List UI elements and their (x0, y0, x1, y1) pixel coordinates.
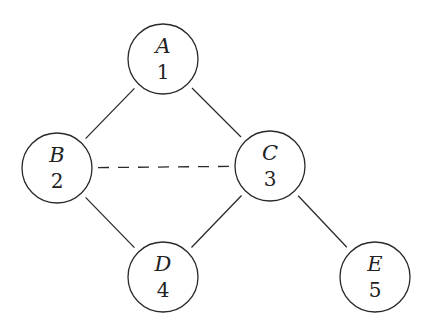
edge-b-d (86, 197, 135, 247)
edge-c-e (298, 196, 347, 247)
node-a: A1 (128, 24, 198, 94)
node-label: D (154, 252, 172, 276)
edges-group (86, 88, 347, 248)
node-value: 4 (157, 278, 170, 302)
nodes-group: A1B2C3D4E5 (22, 24, 410, 312)
node-b: B2 (22, 133, 92, 203)
node-value: 2 (51, 169, 64, 193)
node-value: 1 (157, 60, 170, 84)
graph-diagram: A1B2C3D4E5 (0, 0, 433, 334)
edge-a-b (86, 88, 135, 138)
edge-a-c (192, 88, 241, 137)
node-label: B (48, 143, 64, 167)
node-d: D4 (128, 242, 198, 312)
edge-c-d (191, 196, 241, 248)
node-label: E (366, 252, 382, 276)
node-value: 5 (369, 278, 382, 302)
node-e: E5 (340, 242, 410, 312)
node-label: A (153, 34, 170, 58)
node-c: C3 (235, 131, 305, 201)
node-value: 3 (264, 167, 277, 191)
node-label: C (262, 141, 278, 165)
edge-b-c (98, 166, 229, 167)
